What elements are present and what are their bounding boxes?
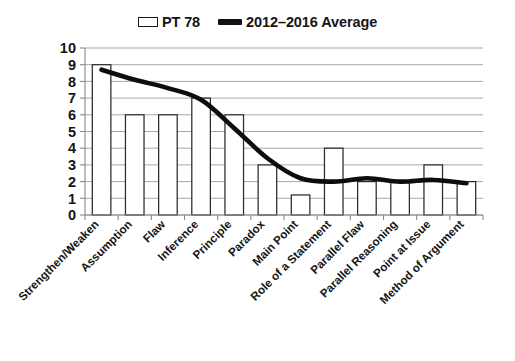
bar [358, 182, 377, 215]
ytick-labels-group: 012345678910 [60, 40, 76, 223]
ytick-label: 8 [68, 74, 76, 90]
bar [424, 165, 443, 215]
xcat-label: Flaw [140, 217, 168, 245]
average-line [102, 70, 467, 184]
gridlines-group [85, 48, 483, 215]
ytick-label: 9 [68, 57, 76, 73]
bars-group [92, 65, 475, 215]
bar [291, 195, 310, 215]
ytick-label: 7 [68, 90, 76, 106]
bar [457, 182, 476, 215]
chart-svg: 012345678910 Strengthen/WeakenAssumption… [0, 0, 515, 361]
ytick-marks-group [80, 48, 85, 215]
plot-area: 012345678910 Strengthen/WeakenAssumption… [0, 0, 515, 361]
ytick-label: 0 [68, 207, 76, 223]
ytick-label: 1 [68, 191, 76, 207]
bar [92, 65, 111, 215]
xcat-labels-group: Strengthen/WeakenAssumptionFlawInference… [15, 217, 466, 307]
bar [391, 182, 410, 215]
bar [159, 115, 178, 215]
average-line-group [102, 70, 467, 184]
ytick-label: 2 [68, 174, 76, 190]
bar [192, 98, 211, 215]
ytick-label: 4 [68, 140, 76, 156]
bar [258, 165, 277, 215]
ytick-label: 5 [68, 124, 76, 140]
ytick-label: 3 [68, 157, 76, 173]
ytick-label: 6 [68, 107, 76, 123]
bar [125, 115, 144, 215]
chart-container: PT 78 2012–2016 Average 012345678910 Str… [0, 0, 515, 361]
ytick-label: 10 [60, 40, 76, 56]
xcat-label: Point at Issue [370, 217, 433, 280]
